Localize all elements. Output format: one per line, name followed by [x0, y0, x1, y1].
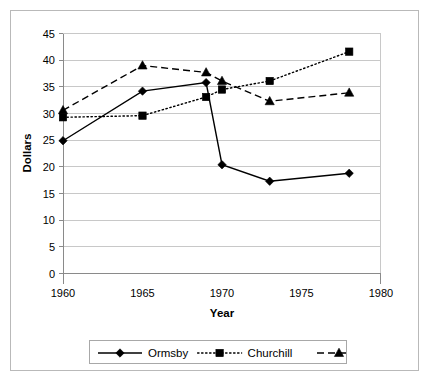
marker-square [59, 114, 66, 121]
legend-entry-churchill[interactable]: Churchill [198, 347, 293, 359]
legend-entry-ormsby[interactable]: Ormsby [98, 347, 189, 359]
marker-square [202, 93, 209, 100]
chart-legend: OrmsbyChurchillElko [89, 340, 347, 364]
y-tick-label: 40 [43, 54, 55, 66]
marker-diamond [218, 161, 226, 169]
marker-triangle [217, 76, 226, 84]
y-tick-label: 0 [49, 268, 55, 280]
y-tick-label: 35 [43, 81, 55, 93]
marker-diamond [266, 177, 274, 185]
x-tick-label: 1960 [51, 287, 75, 299]
y-tick-label: 15 [43, 188, 55, 200]
marker-square [346, 48, 353, 55]
y-tick-label: 45 [43, 28, 55, 40]
marker-square [218, 86, 225, 93]
marker-diamond [59, 137, 67, 145]
y-tick-label: 30 [43, 108, 55, 120]
y-tick-label: 25 [43, 134, 55, 146]
marker-square [216, 349, 223, 356]
marker-triangle [138, 61, 147, 69]
legend-label: Churchill [248, 347, 293, 359]
marker-triangle [345, 88, 354, 96]
chart-figure: 05101520253035404519601965197019751980Ye… [10, 10, 419, 371]
marker-square [266, 77, 273, 84]
x-tick-label: 1980 [369, 287, 393, 299]
y-tick-label: 5 [49, 241, 55, 253]
x-tick-label: 1965 [130, 287, 154, 299]
legend-svg: OrmsbyChurchillElko [90, 341, 346, 363]
marker-diamond [345, 169, 353, 177]
x-axis-title: Year [210, 307, 235, 319]
marker-diamond [138, 87, 146, 95]
plot-area: 05101520253035404519601965197019751980Ye… [11, 11, 420, 331]
legend-entry-elko[interactable]: Elko [317, 347, 346, 359]
y-tick-label: 10 [43, 214, 55, 226]
y-axis-title: Dollars [21, 134, 33, 173]
marker-diamond [116, 349, 124, 357]
marker-square [139, 112, 146, 119]
line-chart-svg: 05101520253035404519601965197019751980Ye… [11, 11, 420, 331]
y-tick-label: 20 [43, 161, 55, 173]
marker-triangle [202, 68, 211, 76]
legend-label: Ormsby [148, 347, 189, 359]
marker-triangle [58, 106, 67, 114]
x-tick-label: 1975 [289, 287, 313, 299]
marker-diamond [202, 78, 210, 86]
x-tick-label: 1970 [210, 287, 234, 299]
